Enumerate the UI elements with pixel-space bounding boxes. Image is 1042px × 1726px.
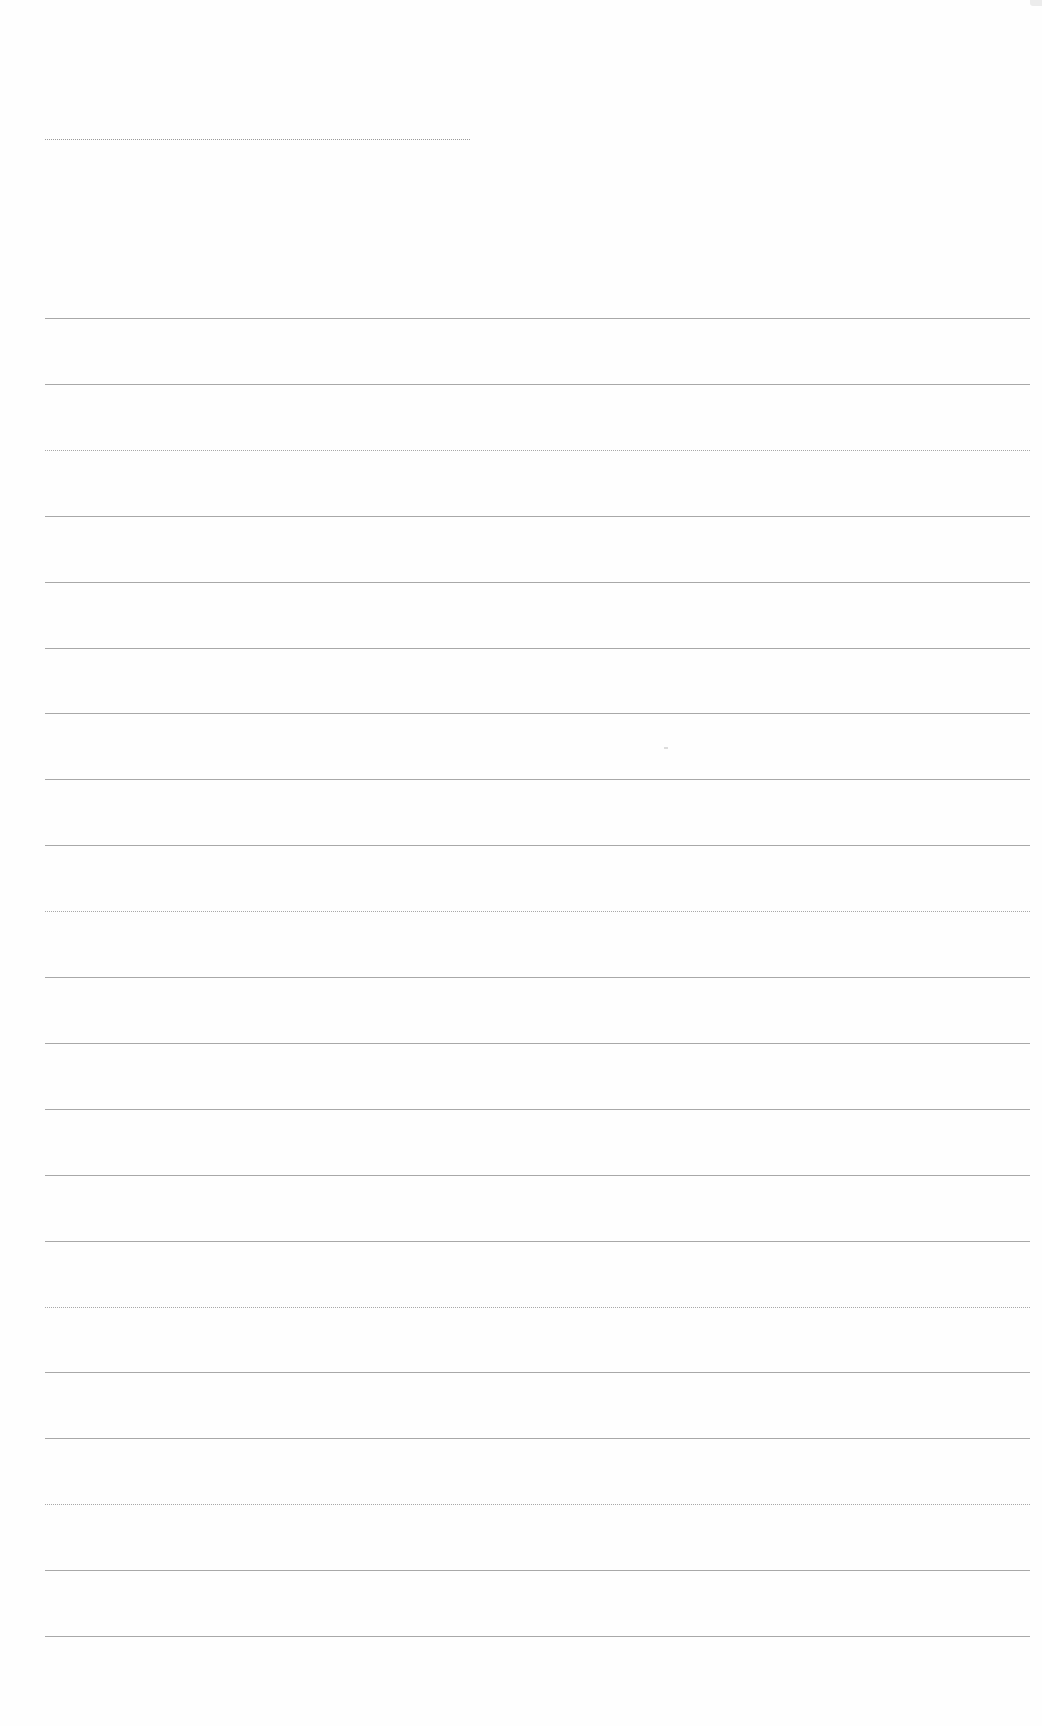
ruled-line [45, 1636, 1030, 1637]
ruled-line [45, 450, 1030, 451]
ruled-line [45, 1043, 1030, 1044]
ruled-line [45, 713, 1030, 714]
ruled-lines [0, 0, 1042, 1726]
lined-page [0, 0, 1042, 1726]
ruled-line [45, 1307, 1030, 1308]
ruled-line [45, 318, 1030, 319]
ruled-line [45, 977, 1030, 978]
ruled-line [45, 1438, 1030, 1439]
ruled-line [45, 1372, 1030, 1373]
ruled-line [45, 779, 1030, 780]
ruled-line [45, 911, 1030, 912]
ruled-line [45, 1504, 1030, 1505]
ruled-line [45, 1570, 1030, 1571]
ruled-line [45, 516, 1030, 517]
ruled-line [45, 1175, 1030, 1176]
ruled-line [45, 845, 1030, 846]
ruled-line [45, 648, 1030, 649]
ruled-line [45, 384, 1030, 385]
ruled-line [45, 1109, 1030, 1110]
ruled-line [45, 1241, 1030, 1242]
ruled-line [45, 582, 1030, 583]
